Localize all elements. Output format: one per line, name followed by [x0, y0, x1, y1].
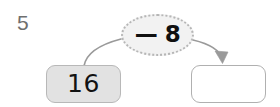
operation-to-answer-arc-icon [193, 40, 222, 59]
operation-label: — 8 [135, 23, 181, 46]
worksheet-problem: 5 — 8 16 [0, 0, 280, 107]
answer-input-box[interactable] [191, 65, 266, 103]
input-value-box: 16 [46, 65, 121, 103]
arrowhead-icon [215, 51, 228, 64]
operation-bubble: — 8 [121, 14, 194, 56]
input-value: 16 [67, 71, 100, 96]
input-to-operation-arc-icon [84, 39, 121, 66]
answer-value[interactable] [228, 83, 229, 84]
